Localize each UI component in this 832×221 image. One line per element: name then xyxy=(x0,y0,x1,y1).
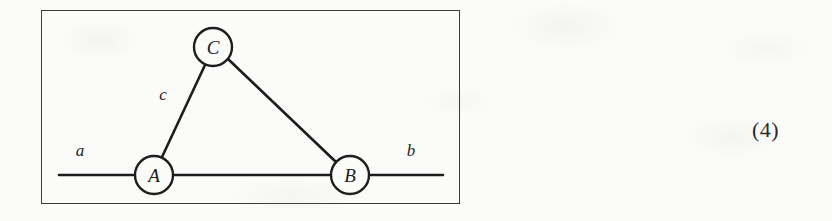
node-c-label: C xyxy=(207,37,220,58)
terminal-label-b: b xyxy=(407,141,416,160)
terminal-label-a: a xyxy=(76,141,85,160)
edge-a-c xyxy=(162,65,205,157)
figure-page: A B C c a b (4) xyxy=(0,0,832,221)
edge-label-c: c xyxy=(159,85,167,104)
edge-c-b xyxy=(228,59,336,162)
graph-diagram: A B C c a b xyxy=(41,10,460,204)
node-b-label: B xyxy=(344,165,356,186)
node-a-label: A xyxy=(146,165,160,186)
equation-number: (4) xyxy=(752,117,779,143)
